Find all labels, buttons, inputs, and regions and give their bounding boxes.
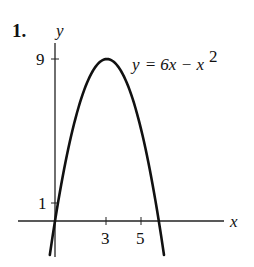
x-tick-label-5: 5: [136, 229, 145, 248]
equation-label: y = 6x − x 2: [130, 47, 218, 74]
x-tick-label-3: 3: [101, 229, 110, 248]
equation-lhs: y: [130, 55, 140, 74]
y-tick-label-1: 1: [38, 194, 47, 213]
parabola-curve: [50, 59, 164, 255]
equation-rhs: = 6x − x: [145, 55, 205, 74]
x-axis-label: x: [229, 212, 238, 231]
y-axis-label: y: [54, 21, 64, 40]
graph-canvas: 1. y x 9 1 3 5 y = 6x − x 2: [0, 0, 254, 267]
problem-number: 1.: [12, 20, 26, 41]
equation-exponent: 2: [209, 47, 218, 66]
y-tick-label-9: 9: [36, 50, 45, 69]
